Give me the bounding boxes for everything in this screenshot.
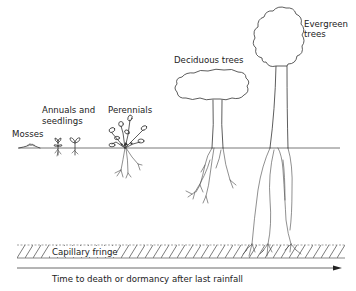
label-annuals-line2: seedlings <box>42 116 83 126</box>
label-annuals-line1: Annuals and <box>42 105 95 115</box>
annuals-seedlings-illustration <box>54 138 80 156</box>
label-time-axis: Time to death or dormancy after last rai… <box>51 274 243 284</box>
plant-drought-diagram: Mosses Annuals and seedlings <box>0 0 356 291</box>
label-evergreen-line2: trees <box>304 29 326 39</box>
label-evergreen-line1: Evergreen <box>304 19 348 29</box>
label-mosses: Mosses <box>12 129 44 139</box>
label-perennials: Perennials <box>108 105 153 115</box>
label-capillary-fringe: Capillary fringe <box>52 247 118 257</box>
evergreen-tree-illustration <box>243 7 304 256</box>
label-deciduous-trees: Deciduous trees <box>174 55 244 65</box>
deciduous-tree-illustration <box>175 69 249 203</box>
mosses-illustration <box>19 144 40 149</box>
time-axis-arrow <box>17 266 342 271</box>
perennials-illustration <box>108 114 147 178</box>
